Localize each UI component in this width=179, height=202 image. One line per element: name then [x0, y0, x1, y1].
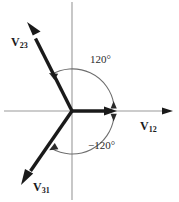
axes-group [4, 2, 173, 200]
x-axis-arrowhead [162, 107, 173, 114]
vectors-group [21, 22, 117, 185]
vector-label-v31-base: V [33, 180, 42, 194]
vector-label-v23-base: V [11, 35, 20, 49]
vector-label-v12-subscript: 12 [149, 125, 157, 134]
arc-start-arrowhead-upper [111, 101, 117, 109]
arc-start-arrowhead-lower [111, 114, 117, 122]
vector-label-v12: V12 [140, 120, 157, 132]
vector-v23-arrowhead [27, 22, 41, 35]
vector-label-v12-base: V [140, 119, 149, 133]
angle-label-negative-120: −120° [88, 140, 115, 151]
vector-label-v23: V23 [11, 36, 28, 48]
vector-v23-shaft [36, 39, 73, 112]
vector-label-v31: V31 [33, 181, 50, 193]
angle-label-positive-120: 120° [90, 54, 111, 65]
vector-diagram: V12 V23 V31 120° −120° [0, 0, 179, 202]
diagram-canvas [0, 0, 179, 202]
vector-label-v31-subscript: 31 [42, 186, 50, 195]
vector-label-v23-subscript: 23 [20, 41, 28, 50]
vector-v31-shaft [31, 111, 73, 171]
